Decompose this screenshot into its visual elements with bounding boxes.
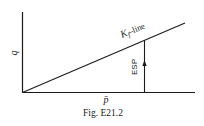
figure-caption: Fig. E21.2 bbox=[83, 108, 123, 118]
y-axis-label: q bbox=[8, 51, 19, 56]
esp-label: ESP bbox=[130, 59, 139, 75]
kf-line-label: Kf–line bbox=[118, 20, 148, 42]
diagram: q p̄ Kf–line ESP Fig. E21.2 bbox=[0, 0, 204, 126]
svg-text:Kf–line: Kf–line bbox=[118, 20, 148, 42]
kf-line bbox=[23, 23, 186, 93]
x-axis-label: p̄ bbox=[103, 94, 109, 105]
kf-label-suffix: –line bbox=[126, 21, 147, 37]
arrow-up-icon bbox=[142, 60, 146, 66]
